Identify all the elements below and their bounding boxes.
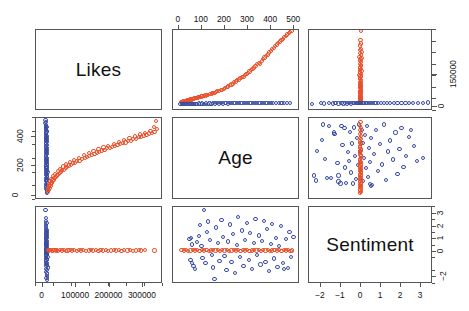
axis-tick-label: 400 xyxy=(15,129,25,143)
data-point xyxy=(112,142,116,146)
data-point xyxy=(342,126,346,130)
data-point xyxy=(388,138,392,142)
data-point xyxy=(210,253,214,257)
axis-tick xyxy=(144,283,145,286)
data-point xyxy=(353,154,357,158)
axis-tick xyxy=(31,195,35,196)
data-point xyxy=(263,260,267,264)
data-point xyxy=(96,147,100,151)
data-point xyxy=(222,254,226,258)
axis-tick xyxy=(432,41,436,42)
data-point xyxy=(323,157,327,161)
data-point xyxy=(321,122,325,126)
axis-tick xyxy=(293,25,294,29)
data-point xyxy=(391,157,395,161)
data-point xyxy=(243,238,247,242)
axis-tick-label: 400 xyxy=(263,14,277,24)
data-point xyxy=(77,156,81,160)
data-point xyxy=(364,166,368,170)
data-point xyxy=(344,181,348,185)
axis-tick xyxy=(32,131,35,132)
axis-tick-label: 200 xyxy=(15,158,25,172)
data-point xyxy=(407,135,411,139)
axis-tick-label: −1 xyxy=(335,290,345,300)
axis-tick xyxy=(53,283,54,286)
data-point xyxy=(45,278,49,282)
data-point xyxy=(426,100,430,104)
axis-tick-label: 0 xyxy=(358,290,363,300)
axis-tick-label: 500 xyxy=(286,14,300,24)
data-point xyxy=(284,237,288,241)
data-point xyxy=(214,225,218,229)
axis-tick xyxy=(32,185,35,186)
data-point xyxy=(288,101,292,105)
data-point xyxy=(310,102,314,106)
data-point xyxy=(238,255,242,259)
data-point xyxy=(43,208,47,212)
data-point xyxy=(279,224,283,228)
data-point xyxy=(350,141,354,145)
axis-tick-label: 0 xyxy=(435,248,445,253)
data-point xyxy=(127,136,131,140)
data-point xyxy=(257,233,261,237)
axis-tick-label: 150000 xyxy=(448,60,458,88)
data-point xyxy=(358,191,362,195)
data-point xyxy=(253,217,257,221)
data-point xyxy=(228,222,232,226)
axis-tick xyxy=(432,276,436,277)
data-point xyxy=(352,125,356,129)
axis-tick xyxy=(71,283,72,286)
axis-tick xyxy=(320,283,321,287)
data-point xyxy=(219,218,223,222)
data-point xyxy=(347,159,351,163)
axis-tick-label: 1 xyxy=(435,236,445,241)
diagonal-label-age: Age xyxy=(173,118,298,198)
data-point xyxy=(290,248,294,252)
data-point xyxy=(399,126,403,130)
axis-tick xyxy=(432,257,435,258)
data-point xyxy=(340,143,344,147)
axis-tick xyxy=(109,283,110,287)
data-point xyxy=(314,178,318,182)
axis-tick xyxy=(142,283,143,287)
panel-age-diagonal: Age xyxy=(172,117,299,199)
data-point xyxy=(404,154,408,158)
data-point xyxy=(359,29,363,33)
data-point xyxy=(374,128,378,132)
diagonal-label-sentiment: Sentiment xyxy=(309,207,431,282)
panel-likes-diagonal: Likes xyxy=(35,29,162,110)
axis-tick-label: 2 xyxy=(398,290,403,300)
axis-tick xyxy=(35,283,36,286)
data-point xyxy=(250,267,254,271)
axis-tick-label: 2 xyxy=(435,224,445,229)
data-point xyxy=(365,124,369,128)
data-point xyxy=(336,173,340,177)
axis-tick-label: 100000 xyxy=(61,290,89,300)
data-point xyxy=(329,176,333,180)
data-point xyxy=(315,149,319,153)
axis-tick-label: 0 xyxy=(10,193,20,198)
data-point xyxy=(327,124,331,128)
axis-tick xyxy=(108,283,109,286)
axis-tick xyxy=(420,283,421,287)
axis-tick-label: 200 xyxy=(217,14,231,24)
data-point xyxy=(289,255,293,259)
axis-tick xyxy=(32,117,35,118)
data-point xyxy=(208,238,212,242)
data-point xyxy=(200,256,204,260)
data-point xyxy=(393,130,397,134)
data-point xyxy=(260,239,264,243)
axis-tick xyxy=(432,232,435,233)
data-point xyxy=(366,175,370,179)
panel-age-vs-sentiment xyxy=(308,117,432,199)
data-point xyxy=(216,241,220,245)
axis-tick xyxy=(432,219,435,220)
axis-tick-label: −2 xyxy=(438,271,448,281)
data-point xyxy=(236,215,240,219)
data-point xyxy=(367,146,371,150)
panel-likes-vs-sentiment xyxy=(308,29,432,110)
data-point xyxy=(277,244,281,248)
panel-likes-vs-age xyxy=(172,29,299,110)
data-point xyxy=(395,172,399,176)
axis-tick-label: 3 xyxy=(418,290,423,300)
